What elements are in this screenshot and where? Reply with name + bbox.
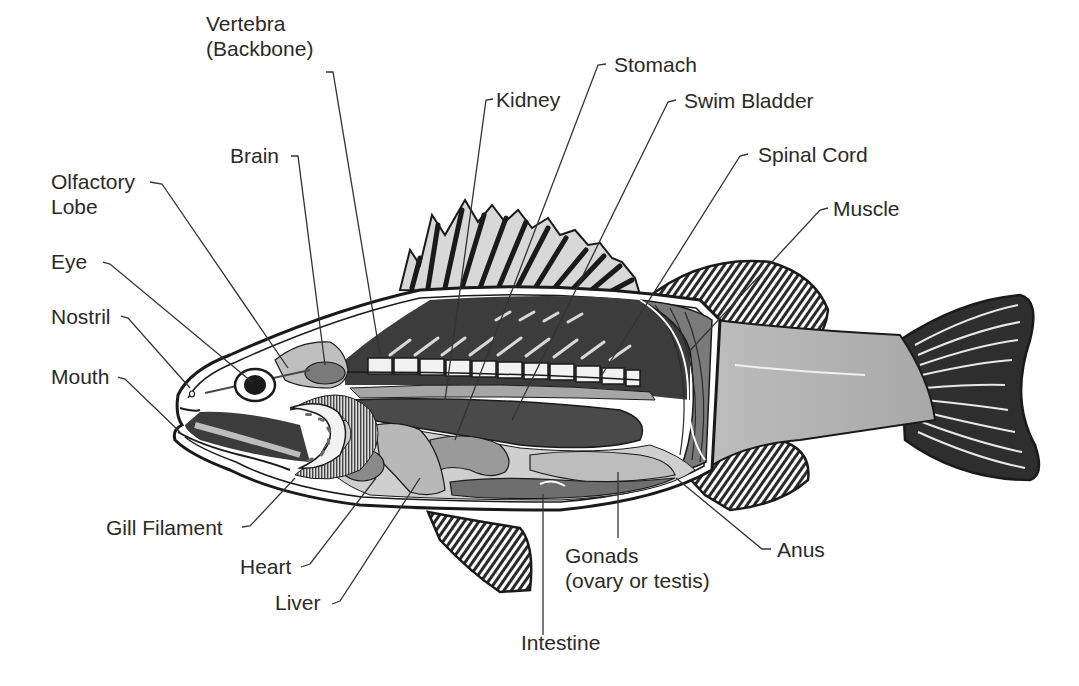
label-gill-filament: Gill Filament	[106, 515, 223, 540]
caudal-peduncle	[705, 320, 935, 470]
label-stomach: Stomach	[614, 52, 697, 77]
label-anus: Anus	[777, 537, 825, 562]
nostril	[190, 391, 195, 397]
label-gonads: Gonads (ovary or testis)	[565, 543, 710, 593]
label-heart: Heart	[240, 554, 291, 579]
label-vertebra: Vertebra (Backbone)	[206, 11, 313, 61]
pelvic-fin	[428, 512, 531, 592]
eye	[235, 369, 275, 401]
leader-mouth	[118, 377, 180, 432]
spiny-dorsal-fin	[400, 200, 640, 295]
leader-eye	[103, 262, 252, 382]
label-eye: Eye	[51, 249, 87, 274]
label-brain: Brain	[230, 143, 279, 168]
brain	[305, 362, 345, 384]
fish-anatomy-diagram: Vertebra (Backbone) Brain Olfactory Lobe…	[0, 0, 1079, 686]
label-olfactory-lobe: Olfactory Lobe	[51, 169, 135, 219]
label-liver: Liver	[275, 590, 321, 615]
label-mouth: Mouth	[51, 364, 109, 389]
label-nostril: Nostril	[51, 304, 111, 329]
leader-nostril	[121, 316, 190, 388]
label-intestine: Intestine	[521, 630, 600, 655]
label-muscle: Muscle	[833, 196, 900, 221]
label-swim-bladder: Swim Bladder	[684, 88, 814, 113]
label-kidney: Kidney	[496, 87, 560, 112]
label-spinal-cord: Spinal Cord	[758, 142, 868, 167]
